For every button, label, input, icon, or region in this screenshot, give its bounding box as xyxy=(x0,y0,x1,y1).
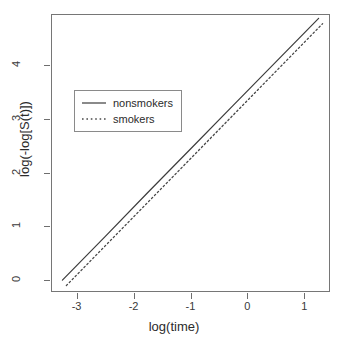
x-axis-label: log(time) xyxy=(0,319,348,334)
y-tick xyxy=(44,226,50,227)
y-tick xyxy=(44,65,50,66)
x-tick xyxy=(247,293,248,299)
legend-entry-nonsmokers: nonsmokers xyxy=(81,96,173,110)
x-tick-label: -1 xyxy=(176,300,206,312)
x-tick-label: -2 xyxy=(119,300,149,312)
x-tick xyxy=(191,293,192,299)
x-tick xyxy=(304,293,305,299)
x-tick-label: 1 xyxy=(289,300,319,312)
y-tick xyxy=(44,280,50,281)
x-tick xyxy=(134,293,135,299)
x-tick-label: -3 xyxy=(62,300,92,312)
x-tick-label: 0 xyxy=(232,300,262,312)
legend-sample-solid-icon xyxy=(81,98,107,108)
line-smokers xyxy=(66,24,322,286)
x-tick xyxy=(77,293,78,299)
y-axis-label: log(-log[S(t)]) xyxy=(15,0,33,289)
y-axis-label-text: log(-log[S(t)]) xyxy=(17,101,32,177)
legend-sample-dotted-icon xyxy=(81,114,107,124)
line-nonsmokers xyxy=(62,18,318,280)
legend-entry-smokers: smokers xyxy=(81,112,155,126)
y-tick xyxy=(44,119,50,120)
legend: nonsmokers smokers xyxy=(74,90,182,132)
chart-figure: -3-2-101 01234 log(time) log(-log[S(t)])… xyxy=(0,0,348,345)
plot-data-layer xyxy=(51,14,330,292)
legend-label-smokers: smokers xyxy=(113,112,155,126)
y-tick xyxy=(44,173,50,174)
legend-label-nonsmokers: nonsmokers xyxy=(113,96,173,110)
